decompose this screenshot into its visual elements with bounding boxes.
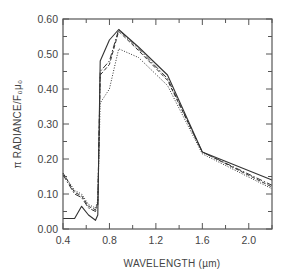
x-tick-label: 2.0 xyxy=(241,234,256,246)
y-tick-label: 0.30 xyxy=(38,118,59,130)
series-solid-low xyxy=(63,30,272,221)
x-tick-label: 1.2 xyxy=(149,234,164,246)
y-tick-label: 0.40 xyxy=(38,83,59,95)
y-axis-tick-labels: 0.000.100.200.300.400.500.60 xyxy=(38,13,59,235)
series-dash-dot xyxy=(63,30,272,212)
series-dashed xyxy=(63,31,272,210)
series-dotted xyxy=(63,49,272,208)
axis-ticks xyxy=(63,19,272,229)
y-axis-label: π RADIANCE/F₀μ₀ xyxy=(12,80,23,169)
radiance-spectrum-chart: 0.40.81.21.62.0 0.000.100.200.300.400.50… xyxy=(0,0,285,277)
y-tick-label: 0.60 xyxy=(38,13,59,25)
plot-frame xyxy=(63,19,272,229)
y-tick-label: 0.20 xyxy=(38,153,59,165)
x-tick-label: 0.8 xyxy=(102,234,117,246)
y-tick-label: 0.00 xyxy=(38,223,59,235)
y-tick-label: 0.50 xyxy=(38,48,59,60)
x-tick-label: 1.6 xyxy=(195,234,210,246)
x-axis-tick-labels: 0.40.81.21.62.0 xyxy=(56,234,257,246)
plot-series-group xyxy=(63,30,272,221)
y-tick-label: 0.10 xyxy=(38,188,59,200)
x-tick-label: 0.4 xyxy=(56,234,71,246)
x-axis-label: WAVELENGTH (µm) xyxy=(124,258,221,269)
